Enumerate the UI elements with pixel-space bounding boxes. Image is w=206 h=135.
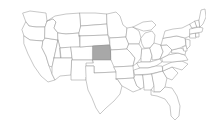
- us-map-svg[interactable]: [0, 0, 206, 135]
- us-state-map-widget[interactable]: [0, 0, 206, 135]
- state-arkansas[interactable]: [114, 66, 134, 79]
- state-south-dakota[interactable]: [79, 24, 108, 36]
- state-colorado[interactable]: [71, 46, 93, 60]
- state-kansas-highlighted[interactable]: [93, 45, 111, 60]
- state-wyoming[interactable]: [58, 33, 80, 48]
- state-iowa[interactable]: [110, 37, 129, 50]
- state-rhode-island[interactable]: [196, 33, 199, 37]
